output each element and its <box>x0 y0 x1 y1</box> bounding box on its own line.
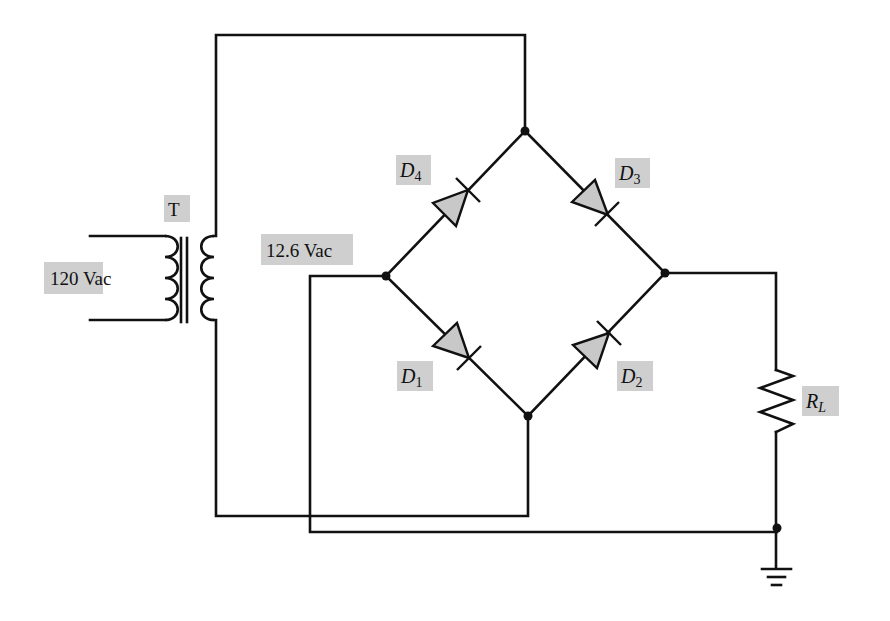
label-d2-main: D <box>620 365 636 387</box>
wire-right-node-to-load <box>665 273 776 370</box>
label-primary-voltage: 120 Vac <box>44 262 111 294</box>
label-load-sub: L <box>817 400 826 415</box>
label-d1: D1 <box>397 361 433 391</box>
node-left <box>382 272 391 281</box>
label-d3-sub: 3 <box>633 172 640 187</box>
secondary-coil-icon <box>201 236 214 320</box>
node-right <box>661 269 670 278</box>
label-transformer-text: T <box>168 199 180 220</box>
resistor-rl-icon <box>760 370 793 432</box>
node-top <box>521 127 530 136</box>
label-d1-sub: 1 <box>415 375 422 390</box>
label-primary-voltage-text: 120 Vac <box>50 268 111 289</box>
label-d3-main: D <box>618 162 634 184</box>
wire-secondary-top-to-top-node <box>214 35 525 236</box>
ground-icon <box>762 569 791 585</box>
label-transformer: T <box>164 195 190 222</box>
node-ground <box>773 524 782 533</box>
label-d4: D4 <box>396 155 431 185</box>
label-load-main: R <box>805 390 818 412</box>
label-d2-sub: 2 <box>635 375 642 390</box>
label-secondary-voltage: 12.6 Vac <box>261 234 353 265</box>
label-secondary-voltage-text: 12.6 Vac <box>266 240 332 261</box>
label-d4-main: D <box>399 159 415 181</box>
label-d3: D3 <box>615 158 650 188</box>
label-d1-main: D <box>400 365 416 387</box>
wire-secondary-bottom-to-bottom-node <box>214 320 528 516</box>
wire-left-node-to-ground-rail <box>310 276 777 532</box>
label-load: RL <box>802 386 839 416</box>
bridge-rectifier-diagram: T 120 Vac 12.6 Vac D4 D3 D1 D2 RL <box>0 0 890 621</box>
primary-coil-icon <box>165 236 178 320</box>
label-d4-sub: 4 <box>414 169 421 184</box>
label-d2: D2 <box>617 361 653 391</box>
node-bottom <box>524 412 533 421</box>
